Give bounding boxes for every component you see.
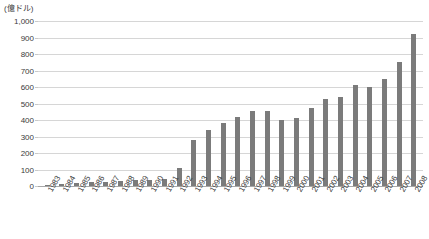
y-axis-tick-label: 0 — [0, 182, 34, 191]
bar-slot — [128, 21, 143, 186]
bar — [265, 111, 270, 186]
y-axis-unit-caption: (億ドル) — [4, 2, 33, 13]
y-axis-tick-label: 700 — [0, 66, 34, 75]
x-axis-slot: 1988 — [113, 188, 128, 238]
bar-slot — [69, 21, 84, 186]
bar-slot — [304, 21, 319, 186]
bar-slot — [40, 21, 55, 186]
bar-slot — [143, 21, 158, 186]
x-axis-slot: 2005 — [362, 188, 377, 238]
bar-slot — [318, 21, 333, 186]
y-axis-tick-label: 600 — [0, 83, 34, 92]
x-axis-slot: 1994 — [201, 188, 216, 238]
bar-slot — [157, 21, 172, 186]
bar — [323, 99, 328, 186]
bar — [382, 79, 387, 186]
x-axis-slot: 1998 — [260, 188, 275, 238]
x-axis-slot: 1987 — [99, 188, 114, 238]
bar — [235, 117, 240, 186]
bar — [411, 34, 416, 186]
x-axis-slot: 1995 — [216, 188, 231, 238]
bar — [353, 85, 358, 186]
bar-slot — [245, 21, 260, 186]
y-axis-tick-label: 300 — [0, 132, 34, 141]
bar-slot — [333, 21, 348, 186]
bar-slot — [84, 21, 99, 186]
bar — [279, 120, 284, 186]
x-axis-slot: 2002 — [318, 188, 333, 238]
x-axis-slot: 1985 — [69, 188, 84, 238]
bar-slot — [216, 21, 231, 186]
bar-slot — [113, 21, 128, 186]
y-axis-tick-label: 800 — [0, 50, 34, 59]
x-axis-slot: 1999 — [275, 188, 290, 238]
x-axis-slot: 1992 — [172, 188, 187, 238]
y-axis-tick-label: 500 — [0, 99, 34, 108]
bar-slot — [172, 21, 187, 186]
bar — [294, 118, 299, 186]
x-axis-slot: 1993 — [187, 188, 202, 238]
x-axis-labels: 1983198419851986198719881989199019911992… — [38, 188, 423, 238]
x-axis-slot: 2003 — [333, 188, 348, 238]
bar-series — [38, 21, 423, 186]
bar-slot — [55, 21, 70, 186]
x-axis-slot: 1989 — [128, 188, 143, 238]
y-axis-tick-label: 400 — [0, 116, 34, 125]
x-axis-slot: 1990 — [143, 188, 158, 238]
bar-slot — [362, 21, 377, 186]
x-axis-slot: 1996 — [231, 188, 246, 238]
y-axis-tick-label: 900 — [0, 33, 34, 42]
bar-slot — [275, 21, 290, 186]
y-axis-tick-mark — [35, 186, 38, 187]
bar-slot — [231, 21, 246, 186]
x-axis-slot: 2006 — [377, 188, 392, 238]
x-axis-slot: 2008 — [406, 188, 421, 238]
bar-slot — [377, 21, 392, 186]
y-axis-tick-label: 100 — [0, 165, 34, 174]
bar — [367, 87, 372, 186]
bar-slot — [260, 21, 275, 186]
x-axis-slot: 2007 — [392, 188, 407, 238]
bar — [250, 111, 255, 186]
bar-slot — [99, 21, 114, 186]
y-axis-tick-label: 1,000 — [0, 17, 34, 26]
x-axis-slot: 1984 — [55, 188, 70, 238]
x-axis-slot: 1986 — [84, 188, 99, 238]
bar-slot — [406, 21, 421, 186]
bar-slot — [201, 21, 216, 186]
x-axis-slot: 1983 — [40, 188, 55, 238]
plot-area: 1,0009008007006005004003002001000 — [38, 21, 423, 186]
bar-slot — [289, 21, 304, 186]
bar-slot — [348, 21, 363, 186]
x-axis-slot: 2004 — [348, 188, 363, 238]
y-axis-tick-label: 200 — [0, 149, 34, 158]
bar-slot — [392, 21, 407, 186]
x-axis-slot: 1991 — [157, 188, 172, 238]
bar — [397, 62, 402, 186]
bar — [338, 97, 343, 186]
bar-slot — [187, 21, 202, 186]
x-axis-slot: 1997 — [245, 188, 260, 238]
bar — [309, 108, 314, 186]
x-axis-slot: 2001 — [304, 188, 319, 238]
x-axis-slot: 2000 — [289, 188, 304, 238]
